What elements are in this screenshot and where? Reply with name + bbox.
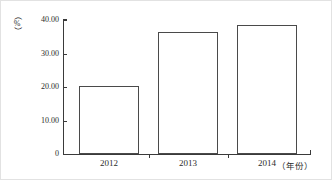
x-label-2013: 2013 xyxy=(158,158,218,168)
y-tick-label-40: 40.00 xyxy=(41,16,59,24)
y-tick-label-10: 10.00 xyxy=(41,117,59,125)
x-axis-line xyxy=(63,154,311,155)
bar-chart-figure: 40.00 30.00 20.00 10.00 0 （ % ） 2012 201… xyxy=(0,0,332,180)
y-tick-10 xyxy=(63,121,67,122)
y-tick-label-30: 30.00 xyxy=(41,50,59,58)
x-minor-tick-1 xyxy=(149,154,150,158)
y-tick-30 xyxy=(63,54,67,55)
bar-2012 xyxy=(79,86,139,154)
x-label-2012: 2012 xyxy=(79,158,139,168)
bar-2014 xyxy=(237,25,297,154)
y-tick-label-0: 0 xyxy=(55,150,59,158)
y-axis-unit-label: （ % ） xyxy=(10,13,24,34)
bar-2013 xyxy=(158,32,218,154)
y-tick-label-20: 20.00 xyxy=(41,83,59,91)
x-axis-end-cap xyxy=(310,150,311,155)
y-unit-paren-close: ） xyxy=(14,24,20,38)
y-tick-40 xyxy=(63,20,67,21)
y-tick-20 xyxy=(63,87,67,88)
x-axis-unit-label: （年份） xyxy=(277,161,313,171)
x-minor-tick-2 xyxy=(228,154,229,158)
y-unit-paren-open: （ xyxy=(14,9,20,23)
